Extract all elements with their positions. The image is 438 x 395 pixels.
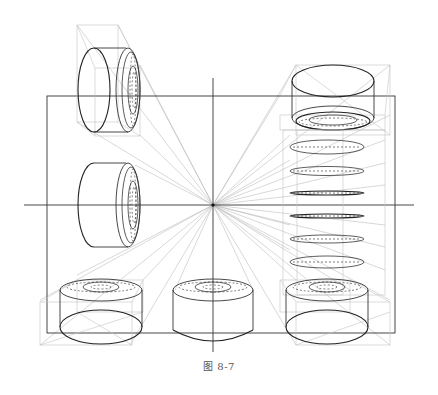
top-right-cylinder <box>280 65 390 135</box>
converging-rays <box>40 25 390 345</box>
figure-caption: 图 8-7 <box>0 358 438 373</box>
vanishing-point <box>211 203 214 206</box>
top-left-cylinder <box>77 25 140 136</box>
bottom-left-cylinder <box>40 279 143 345</box>
section-4 <box>290 214 364 218</box>
perspective-figure <box>0 0 438 395</box>
right-column-sections <box>283 130 385 295</box>
section-1 <box>290 140 364 154</box>
bottom-right-cylinder <box>280 279 390 345</box>
